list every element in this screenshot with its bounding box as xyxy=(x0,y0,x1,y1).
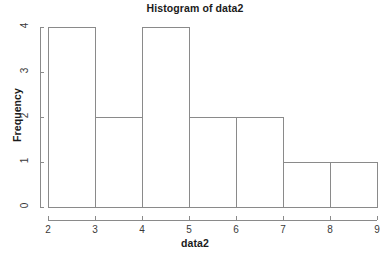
histogram-bar xyxy=(236,117,283,207)
histogram-plot: Histogram of data2 Frequency data2 23456… xyxy=(0,0,390,259)
x-tick-label: 7 xyxy=(273,224,293,235)
x-tick-label: 9 xyxy=(367,224,387,235)
histogram-bar xyxy=(142,27,189,207)
y-tick-label: 2 xyxy=(19,106,30,126)
x-tick-label: 3 xyxy=(85,224,105,235)
x-axis xyxy=(48,216,377,220)
histogram-bar xyxy=(189,117,236,207)
histogram-bar xyxy=(330,162,377,207)
histogram-bar xyxy=(48,27,95,207)
y-axis xyxy=(40,27,44,207)
x-tick-label: 5 xyxy=(179,224,199,235)
y-tick-label: 0 xyxy=(19,196,30,216)
y-tick-label: 4 xyxy=(19,16,30,36)
x-tick-label: 8 xyxy=(320,224,340,235)
histogram-bar xyxy=(95,117,142,207)
x-tick-label: 2 xyxy=(38,224,58,235)
plot-canvas xyxy=(0,0,390,259)
y-tick-label: 1 xyxy=(19,151,30,171)
histogram-bar xyxy=(283,162,330,207)
x-tick-label: 6 xyxy=(226,224,246,235)
x-tick-label: 4 xyxy=(132,224,152,235)
histogram-bars xyxy=(48,27,377,207)
y-tick-label: 3 xyxy=(19,61,30,81)
